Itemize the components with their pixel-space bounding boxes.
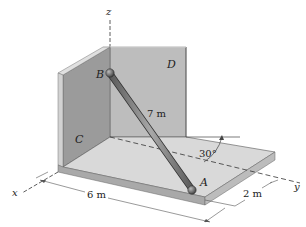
dimension-6m-label: 6 m xyxy=(87,189,107,200)
x-axis xyxy=(22,172,58,193)
z-axis-label: z xyxy=(105,6,112,17)
y-axis-label: y xyxy=(293,181,300,192)
x-axis-label: x xyxy=(12,187,18,198)
angle-label: 30° xyxy=(199,148,217,159)
point-b-label: B xyxy=(95,68,104,81)
wall-d-label: D xyxy=(166,58,176,71)
statics-diagram: z y x 30° B A D C 7 m xyxy=(0,0,306,227)
joint-b xyxy=(106,69,114,77)
dimension-2m-label: 2 m xyxy=(243,188,263,199)
joint-a xyxy=(188,186,196,194)
point-a-label: A xyxy=(199,176,208,189)
wall-c-label: C xyxy=(75,133,84,146)
rod-length-label: 7 m xyxy=(147,108,167,119)
angle-arrow xyxy=(219,135,224,140)
